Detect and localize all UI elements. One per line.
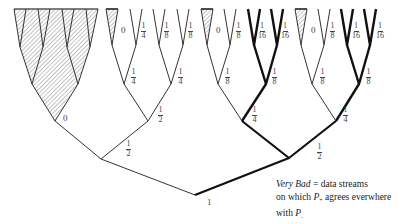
fraction-mid-leaf-quarter: 14 [141,22,146,40]
caption-term: Very Bad [276,179,311,189]
caption-line-2-post: agrees everwhere [323,192,392,202]
caption-line-1: Very Bad = data streams [276,178,391,191]
fraction-r2-eighth-right: 18 [366,68,371,86]
fraction-mid-quarter-left: 14 [131,68,136,86]
fraction-r1-leaf-eighth: 18 [236,22,241,40]
fraction-r1-eighth-left: 18 [225,68,230,86]
caption-line-3-pre: with [276,208,295,218]
caption: Very Bad = data streams on which P+ agre… [276,178,391,223]
middle-subtree [106,9,189,121]
caption-line-1-text: = data streams [311,179,368,189]
fraction-half-right: 12 [317,143,322,161]
left-hatched-subtree [14,9,98,121]
fraction-r1-leaf-16-1: 116 [258,22,266,40]
right-subtree-1 [201,9,283,121]
label-mid-leaf-zero: 0 [121,26,126,35]
fraction-r1-leaf-16-2: 116 [281,22,289,40]
fraction-r1-quarter: 14 [252,106,257,124]
fraction-r2-leaf-16-2: 116 [376,22,384,40]
fraction-mid-quarter-right: 14 [178,68,183,86]
fraction-r1-eighth-right: 18 [272,68,277,86]
fraction-r2-eighth-left: 18 [320,68,325,86]
fraction-r2-quarter: 14 [343,106,348,124]
fraction-half-mid: 12 [158,106,163,124]
caption-line-2-pre: on which [276,192,313,202]
fraction-mid-leaf-eighth-2: 18 [188,22,193,40]
right-subtree-2 [295,9,376,121]
fraction-r2-leaf-eighth: 18 [330,22,335,40]
label-r1-leaf-zero: 0 [216,26,221,35]
caption-line-3: with P. [276,207,391,223]
fraction-r2-leaf-16-1: 116 [352,22,360,40]
caption-line-2: on which P+ agrees everwhere [276,191,391,207]
fraction-half-left-trunk: 12 [126,140,131,158]
caption-p2-sub: . [301,213,303,219]
label-left-zero: 0 [63,114,68,123]
label-root: 1 [207,198,212,207]
fraction-mid-leaf-eighth-1: 18 [164,22,169,40]
label-r2-leaf-zero: 0 [311,26,316,35]
